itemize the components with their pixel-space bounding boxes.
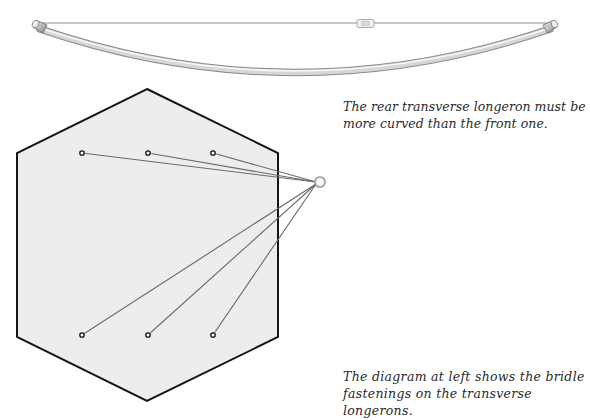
fastening-point-icon	[77, 330, 87, 340]
hexagon-frame	[17, 89, 278, 401]
figure-canvas	[0, 0, 590, 420]
bridle-ring-icon	[315, 177, 325, 187]
longeron-illustration	[31, 19, 559, 72]
fastening-point-icon	[143, 148, 153, 158]
bridle-diagram	[17, 89, 325, 401]
longeron-caption: The rear transverse longeron must be mor…	[343, 98, 588, 132]
fastening-point-icon	[143, 330, 153, 340]
fastening-point-icon	[208, 330, 218, 340]
fastening-point-icon	[208, 148, 218, 158]
bridle-caption: The diagram at left shows the bridle fas…	[343, 368, 588, 419]
fastening-point-icon	[77, 148, 87, 158]
turnbuckle-icon	[357, 20, 374, 28]
